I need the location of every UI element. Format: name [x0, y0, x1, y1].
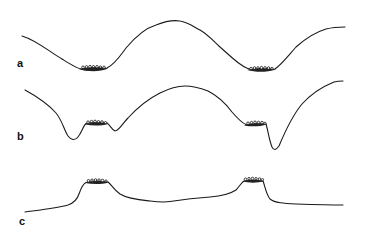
panel-label-c: c: [19, 215, 25, 227]
deposit-c-right: [242, 177, 264, 182]
profile-c-line: [25, 180, 343, 212]
profile-a-line: [22, 21, 345, 71]
panel-label-b: b: [17, 130, 24, 142]
cross-section-figure: a b: [0, 0, 365, 234]
panel-label-a: a: [17, 57, 24, 69]
panel-a: a: [17, 21, 345, 72]
deposit-c-left: [85, 179, 109, 184]
panel-b: b: [17, 81, 343, 150]
deposit-a-left: [79, 65, 108, 71]
profile-b-line: [25, 81, 343, 150]
deposit-a-right: [247, 66, 276, 71]
deposit-b-left: [85, 120, 108, 125]
panel-c: c: [19, 177, 343, 227]
